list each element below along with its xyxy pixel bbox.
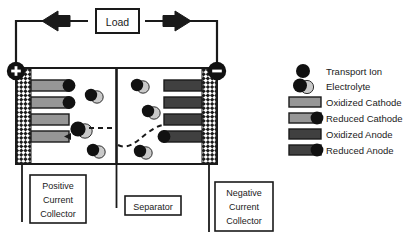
positive-current-collector-block	[17, 69, 31, 163]
legend-label-electrolyte: Electrolyte	[326, 81, 370, 92]
callout-negative-line-1: Current	[229, 202, 260, 212]
callout-positive-line-1: Current	[43, 195, 74, 205]
callout-negative-line-2: Collector	[226, 216, 262, 226]
legend-item-reduced-anode: Reduced Anode	[289, 144, 394, 157]
transport-ion-icon	[296, 64, 310, 78]
positive-terminal	[7, 62, 25, 80]
legend-label-oxidized-anode: Oxidized Anode	[326, 129, 393, 140]
negative-terminal	[208, 62, 226, 80]
callout-positive-line-0: Positive	[42, 181, 74, 191]
legend-item-oxidized-cathode: Oxidized Cathode	[289, 97, 402, 108]
legend-label-oxidized-cathode: Oxidized Cathode	[326, 97, 402, 108]
callout-separator-line-0: Separator	[133, 202, 173, 212]
battery-schematic: Load e- i	[0, 0, 413, 237]
callout-separator: Separator	[125, 196, 181, 215]
oxidized-cathode-icon	[289, 97, 321, 107]
load-label: Load	[106, 16, 130, 28]
cathode-bar-0-ion	[63, 79, 76, 92]
anode-bar-3-ion	[158, 130, 171, 143]
cathode-bar-3	[31, 131, 69, 142]
legend-label-transport-ion: Transport Ion	[326, 66, 382, 77]
callout-positive-current-collector: Positive Current Collector	[30, 175, 86, 223]
cell-body	[7, 62, 226, 164]
legend-item-reduced-cathode: Reduced Cathode	[289, 112, 403, 125]
reduced-cathode-icon	[289, 112, 323, 125]
callout-negative-current-collector: Negative Current Collector	[215, 182, 273, 231]
oxidized-anode-icon	[289, 129, 321, 139]
anode-bar-0	[164, 80, 202, 91]
callout-negative-line-0: Negative	[226, 188, 262, 198]
reduced-anode-icon	[289, 144, 323, 157]
anode-bar-2	[164, 114, 202, 125]
electron-arrow-label: e-	[59, 18, 66, 27]
callout-positive-line-2: Collector	[40, 209, 76, 219]
cathode-bar-2	[31, 114, 69, 125]
legend-label-reduced-cathode: Reduced Cathode	[326, 113, 403, 124]
negative-current-collector-block	[202, 69, 216, 163]
legend-label-reduced-anode: Reduced Anode	[326, 145, 394, 156]
cathode-bar-1-ion	[63, 96, 76, 109]
anode-bar-1	[164, 97, 202, 108]
diagram-canvas: Load e- i	[0, 0, 413, 237]
legend-item-electrolyte: Electrolyte	[293, 79, 370, 94]
legend-item-oxidized-anode: Oxidized Anode	[289, 129, 393, 140]
